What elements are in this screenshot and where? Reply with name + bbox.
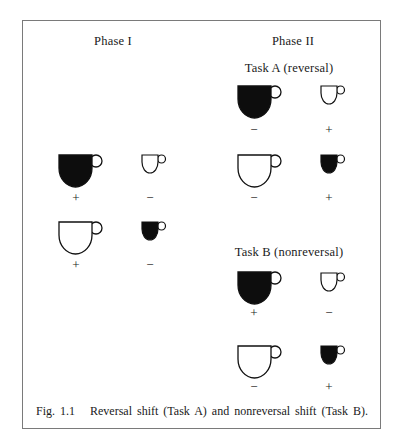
phase1-title: Phase I — [94, 34, 132, 49]
task-a-title: Task A (reversal) — [245, 61, 334, 76]
sign-minus: − — [250, 123, 257, 136]
cup-small-black-icon — [320, 345, 346, 366]
sign-plus: + — [325, 191, 332, 204]
task-b-title: Task B (nonreversal) — [235, 245, 344, 260]
sign-minus: − — [250, 380, 257, 393]
sign-minus: − — [146, 191, 153, 204]
phase2-title: Phase II — [272, 34, 314, 49]
cup-small-black-icon — [320, 154, 346, 175]
sign-plus: + — [325, 123, 332, 136]
cup-small-white-icon — [141, 154, 167, 175]
cup-large-black-icon — [237, 271, 283, 307]
cup-large-white-icon — [58, 221, 104, 257]
sign-plus: + — [325, 380, 332, 393]
sign-minus: − — [250, 191, 257, 204]
cup-small-black-icon — [141, 221, 167, 242]
sign-minus: − — [325, 306, 332, 319]
figure-caption: Fig. 1.1 Reversal shift (Task A) and non… — [36, 404, 368, 419]
sign-plus: + — [72, 191, 79, 204]
cup-large-white-icon — [237, 154, 283, 190]
sign-minus: − — [146, 258, 153, 271]
cup-small-white-icon — [320, 85, 346, 106]
cup-large-black-icon — [58, 154, 104, 190]
cup-small-white-icon — [320, 272, 346, 293]
cup-large-white-icon — [237, 345, 283, 381]
cup-large-black-icon — [237, 85, 283, 121]
sign-plus: + — [250, 306, 257, 319]
sign-plus: + — [72, 258, 79, 271]
